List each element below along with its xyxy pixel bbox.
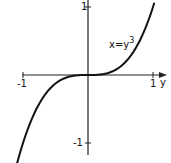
curve-label-text: x=y — [109, 39, 129, 50]
y-tick-label-1: 1 — [81, 2, 87, 12]
curve-label: x=y3 — [109, 37, 134, 50]
x-tick-label-1: 1 — [150, 79, 156, 89]
x-tick-label-neg1: -1 — [17, 79, 27, 89]
axis-label-y: y — [160, 78, 166, 88]
y-tick-label-neg1: -1 — [73, 138, 83, 148]
curve-label-exponent: 3 — [129, 36, 134, 45]
curve-x-equals-y-cubed — [17, 3, 155, 163]
